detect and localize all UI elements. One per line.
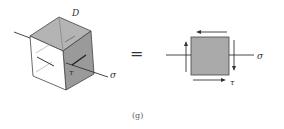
- arrowhead-right-icon: [221, 78, 226, 82]
- stress-square: [191, 37, 229, 75]
- label-sigma-element: σ: [257, 51, 264, 61]
- cube-3d: D τ σ: [14, 8, 117, 90]
- label-tau-cube: τ: [69, 68, 74, 77]
- arrowhead-up-icon: [184, 41, 188, 46]
- arrowhead-left-icon: [196, 30, 201, 34]
- plane-stress-element: σ τ: [166, 30, 264, 87]
- label-tau-element: τ: [230, 78, 235, 87]
- stress-element-diagram: D τ σ = σ τ (g): [0, 0, 284, 129]
- equals-sign: =: [130, 44, 143, 63]
- arrowhead-down-icon: [232, 66, 236, 71]
- label-sigma-cube: σ: [110, 70, 117, 80]
- label-d: D: [71, 8, 79, 18]
- sigma-axis-line: [14, 32, 30, 38]
- figure-caption: (g): [132, 111, 143, 120]
